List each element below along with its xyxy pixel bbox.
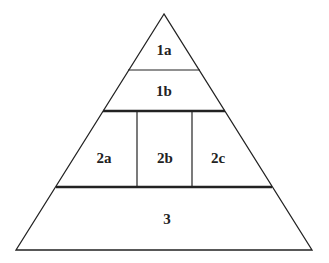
section-label-1a: 1a xyxy=(157,42,173,58)
section-label-2a: 2a xyxy=(97,150,113,166)
section-label-2b: 2b xyxy=(157,150,173,166)
section-label-2c: 2c xyxy=(211,150,226,166)
section-label-1b: 1b xyxy=(156,83,172,99)
pyramid-diagram: 1a 1b 2a 2b 2c 3 xyxy=(0,0,329,263)
section-label-3: 3 xyxy=(163,211,171,227)
